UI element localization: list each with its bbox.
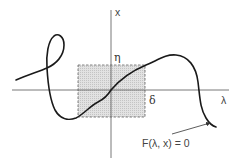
delta-label: δ bbox=[149, 95, 156, 106]
implicit-function-diagram: x η δ λ F(λ, x) = 0 bbox=[0, 0, 241, 165]
curve-equation-label: F(λ, x) = 0 bbox=[142, 138, 190, 149]
eta-label: η bbox=[114, 52, 121, 63]
lambda-axis-label: λ bbox=[221, 95, 226, 106]
diagram-canvas bbox=[0, 0, 241, 165]
x-axis-label: x bbox=[115, 7, 120, 18]
label-pointer-arrow bbox=[172, 123, 210, 134]
